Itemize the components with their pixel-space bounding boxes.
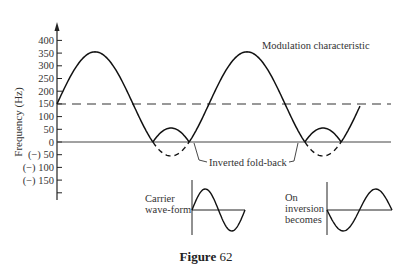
carrier-label-line1: Carrier [145, 193, 175, 204]
inverted-foldback-dashed-curve [153, 142, 341, 156]
carrier-waveform-inset: Carrier wave-form [145, 180, 245, 235]
figure-caption-number: 62 [219, 249, 232, 264]
y-axis [55, 22, 60, 200]
figure-caption: Figure 62 [0, 249, 412, 265]
modulation-characteristic-curve [57, 52, 360, 142]
y-tick-label: 350 [38, 48, 54, 59]
figure-caption-label: Figure [180, 249, 217, 264]
inversion-label-line3: becomes [285, 214, 322, 225]
y-tick-label: 400 [38, 35, 54, 46]
y-tick-label: 50 [44, 124, 55, 135]
inverted-waveform-inset: On inversion becomes [285, 182, 392, 235]
axis-arrow-icon [55, 22, 60, 31]
y-tick-label: (−) 100 [23, 162, 54, 174]
y-tick-label: 250 [38, 73, 54, 84]
y-tick-label: (−) 150 [23, 175, 54, 187]
modulation-characteristic-label: Modulation characteristic [262, 40, 370, 51]
inversion-label-line1: On [285, 192, 299, 203]
y-tick-label: (−) 50 [28, 149, 54, 161]
y-axis-label: Frequency (Hz) [12, 87, 25, 157]
y-tick-label: 100 [38, 111, 54, 122]
y-tick-label: 150 [38, 98, 54, 109]
y-tick-label: 200 [38, 86, 54, 97]
figure-62-chart: 400350300250200150100500(−) 50(−) 100(−)… [0, 0, 412, 250]
y-axis-ticks: 400350300250200150100500(−) 50(−) 100(−)… [23, 35, 62, 193]
inversion-label-line2: inversion [285, 203, 325, 214]
carrier-label-line2: wave-form [145, 204, 191, 215]
inverted-foldback-label: Inverted fold-back [209, 157, 288, 168]
y-tick-label: 300 [38, 60, 54, 71]
y-tick-label: 0 [49, 137, 54, 148]
